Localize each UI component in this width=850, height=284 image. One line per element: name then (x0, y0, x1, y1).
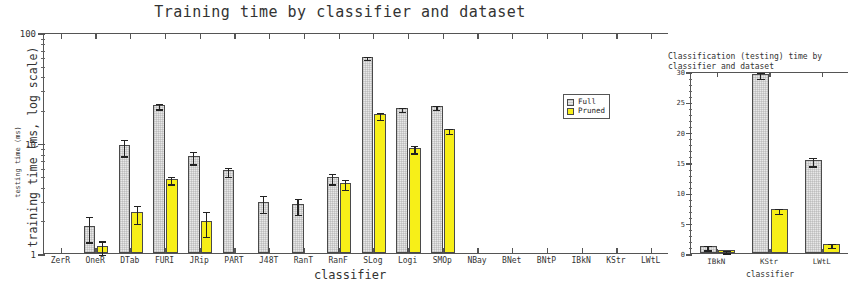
bar-full-RanF (327, 177, 339, 253)
inset-bar-full-LWtL (805, 160, 822, 253)
inset-y-tick-label: 10 (677, 190, 685, 198)
inset-y-tick-minor (689, 115, 692, 116)
bar-pruned-FURI (166, 179, 178, 253)
error-cap-bottom-RanT-0 (295, 215, 302, 216)
inset-y-tick-major (686, 72, 692, 73)
x-tick-label-RanF: RanF (328, 256, 347, 265)
y-tick-minor (41, 188, 45, 189)
error-cap-bottom-FURI-1 (168, 184, 175, 185)
error-cap-bottom-RanF-1 (342, 190, 349, 191)
x-tick-bottom (651, 248, 652, 253)
x-tick-top (200, 34, 201, 39)
x-tick-top (165, 34, 166, 39)
error-cap-bottom-OneR-0 (86, 242, 93, 243)
x-tick-label-NBay: NBay (467, 256, 486, 265)
error-cap-bottom-DTab-0 (121, 156, 128, 157)
x-tick-top (582, 34, 583, 39)
x-tick-label-SLog: SLog (363, 256, 382, 265)
inset-y-tick-minor (689, 121, 692, 122)
inset-y-tick-minor (689, 157, 692, 158)
inset-error-cap-bottom-IBkN-1 (723, 253, 731, 254)
legend-label-pruned: Pruned (578, 107, 605, 115)
inset-error-cap-top-KStr-0 (757, 73, 765, 74)
x-tick-top (339, 34, 340, 39)
x-tick-label-ZerR: ZerR (51, 256, 70, 265)
inset-y-tick-minor (689, 242, 692, 243)
x-tick-label-Logi: Logi (398, 256, 417, 265)
x-tick-label-KStr: KStr (606, 256, 625, 265)
x-tick-label-RanT: RanT (294, 256, 313, 265)
error-cap-bottom-FURI-0 (156, 109, 163, 110)
bar-pruned-RanF (340, 183, 352, 253)
legend-label-full: Full (578, 98, 596, 106)
error-cap-top-FURI-1 (168, 177, 175, 178)
y-tick-minor (41, 177, 45, 178)
legend-swatch-pruned (567, 108, 574, 115)
inset-y-tick-minor (689, 139, 692, 140)
x-tick-label-BNtP: BNtP (537, 256, 556, 265)
error-bar-pruned-JRip (206, 212, 207, 237)
error-cap-top-OneR-0 (86, 217, 93, 218)
legend-entry-full: Full (567, 98, 605, 106)
error-bar-full-J48T (263, 196, 264, 213)
error-cap-bottom-Logi-0 (399, 112, 406, 113)
bar-full-FURI (153, 105, 165, 253)
legend-entry-pruned: Pruned (567, 107, 605, 115)
error-cap-bottom-SMOp-0 (433, 110, 440, 111)
inset-y-axis-label: testing time (ms) (14, 107, 22, 217)
y-tick-minor (41, 149, 45, 150)
inset-error-cap-bottom-KStr-0 (757, 79, 765, 80)
inset-y-tick-minor (689, 176, 692, 177)
x-tick-top (443, 34, 444, 39)
y-tick-major (38, 254, 45, 255)
error-cap-bottom-JRip-0 (190, 164, 197, 165)
error-bar-full-OneR (89, 217, 90, 242)
chart-canvas: Training time by classifier and dataset … (0, 0, 850, 284)
error-cap-bottom-SLog-0 (364, 60, 371, 61)
inset-y-tick-minor (689, 248, 692, 249)
inset-bar-pruned-KStr (771, 209, 788, 253)
error-bar-full-RanF (332, 174, 333, 185)
y-tick-minor (41, 39, 45, 40)
error-cap-top-JRip-1 (203, 212, 210, 213)
inset-y-tick-minor (689, 206, 692, 207)
inset-y-tick-major (686, 224, 692, 225)
y-tick-minor (41, 155, 45, 156)
inset-error-cap-bottom-LWtL-1 (828, 248, 836, 249)
x-tick-bottom (61, 248, 62, 253)
inset-error-cap-top-KStr-1 (775, 209, 783, 210)
inset-x-tick-label-KStr: KStr (760, 257, 778, 266)
inset-y-tick-label: 25 (677, 99, 685, 107)
inset-error-cap-bottom-LWtL-0 (809, 166, 817, 167)
inset-y-tick-label: 30 (677, 69, 685, 77)
y-tick-major (38, 144, 45, 145)
x-tick-top (616, 34, 617, 39)
inset-bar-full-KStr (752, 74, 769, 253)
inset-error-bar-LWtL-0 (813, 158, 814, 166)
error-cap-top-DTab-0 (121, 140, 128, 141)
error-cap-top-RanF-1 (342, 180, 349, 181)
error-cap-top-Logi-0 (399, 108, 406, 109)
error-cap-bottom-SLog-1 (377, 120, 384, 121)
error-cap-top-RanT-0 (295, 199, 302, 200)
inset-y-tick-minor (689, 79, 692, 80)
inset-x-tick-label-IBkN: IBkN (707, 257, 725, 266)
error-cap-top-PART-0 (225, 168, 232, 169)
inset-y-tick-major (686, 254, 692, 255)
legend-swatch-full (567, 99, 574, 106)
error-cap-top-SLog-1 (377, 113, 384, 114)
inset-y-tick-minor (689, 91, 692, 92)
y-tick-minor (41, 67, 45, 68)
x-tick-bottom (547, 248, 548, 253)
inset-y-tick-minor (689, 127, 692, 128)
error-cap-bottom-JRip-1 (203, 237, 210, 238)
x-tick-top (651, 34, 652, 39)
bar-full-SLog (362, 57, 374, 253)
inset-x-axis-label: classifier (690, 270, 850, 279)
inset-y-tick-minor (689, 212, 692, 213)
inset-error-cap-top-IBkN-1 (723, 251, 731, 252)
y-tick-minor (41, 202, 45, 203)
y-tick-minor (41, 44, 45, 45)
x-tick-label-OneR: OneR (85, 256, 104, 265)
inset-error-cap-top-LWtL-0 (809, 158, 817, 159)
